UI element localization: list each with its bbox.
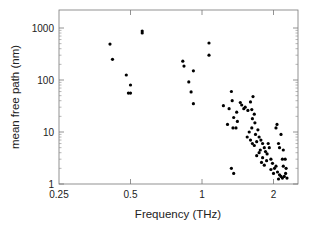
data-point bbox=[274, 165, 277, 168]
data-point bbox=[240, 103, 243, 106]
data-point bbox=[278, 146, 281, 149]
data-point bbox=[248, 130, 251, 133]
data-point bbox=[274, 126, 277, 129]
data-point bbox=[111, 58, 114, 61]
data-point bbox=[231, 99, 234, 102]
data-point bbox=[285, 177, 288, 180]
x-axis-label: Frequency (THz) bbox=[135, 208, 221, 220]
data-point bbox=[192, 102, 195, 105]
data-point bbox=[255, 154, 258, 157]
y-tick-label: 100 bbox=[37, 75, 54, 86]
x-tick-label: 1 bbox=[199, 189, 205, 200]
data-point bbox=[231, 126, 234, 129]
data-point bbox=[272, 172, 275, 175]
data-point bbox=[253, 121, 256, 124]
x-tick-label: 0.5 bbox=[124, 189, 138, 200]
y-axis-label: mean free path (nm) bbox=[9, 45, 21, 149]
data-point bbox=[228, 107, 231, 110]
data-point bbox=[232, 172, 235, 175]
data-point bbox=[125, 73, 128, 76]
data-point bbox=[265, 159, 268, 162]
data-point bbox=[256, 128, 259, 131]
data-point bbox=[269, 158, 272, 161]
data-point bbox=[260, 161, 263, 164]
data-point bbox=[249, 139, 252, 142]
data-point bbox=[282, 148, 285, 151]
y-tick-label: 1 bbox=[48, 179, 54, 190]
data-point bbox=[258, 151, 261, 154]
y-tick-label: 10 bbox=[43, 127, 55, 138]
data-point bbox=[255, 140, 258, 143]
data-point bbox=[282, 165, 285, 168]
data-point bbox=[277, 142, 280, 145]
data-point bbox=[268, 146, 271, 149]
data-point bbox=[284, 158, 287, 161]
data-point bbox=[285, 167, 288, 170]
x-tick-label: 0.25 bbox=[49, 189, 69, 200]
data-point bbox=[261, 142, 264, 145]
data-point bbox=[192, 69, 195, 72]
data-point bbox=[284, 172, 287, 175]
data-point bbox=[246, 135, 249, 138]
data-point bbox=[258, 135, 261, 138]
data-point bbox=[279, 133, 282, 136]
data-point bbox=[187, 80, 190, 83]
data-point bbox=[129, 83, 132, 86]
data-point bbox=[254, 133, 257, 136]
data-point bbox=[275, 123, 278, 126]
data-point bbox=[108, 43, 111, 46]
data-point bbox=[267, 142, 270, 145]
data-point bbox=[281, 158, 284, 161]
data-point bbox=[269, 168, 272, 171]
data-point bbox=[234, 126, 237, 129]
data-point bbox=[190, 90, 193, 93]
data-point bbox=[207, 41, 210, 44]
scatter-chart: 1101001000 0.250.512 Frequency (THz) mea… bbox=[0, 0, 315, 228]
data-point bbox=[276, 170, 279, 173]
data-point bbox=[253, 144, 256, 147]
data-point bbox=[261, 156, 264, 159]
data-point bbox=[141, 31, 144, 34]
data-point bbox=[249, 100, 252, 103]
data-point bbox=[222, 104, 225, 107]
y-tick-label: 1000 bbox=[32, 23, 55, 34]
data-point bbox=[253, 113, 256, 116]
data-point bbox=[263, 164, 266, 167]
data-point bbox=[230, 167, 233, 170]
data-point bbox=[263, 146, 266, 149]
data-point bbox=[244, 106, 247, 109]
data-point bbox=[246, 109, 249, 112]
data-point bbox=[250, 126, 253, 129]
data-point bbox=[277, 177, 280, 180]
x-tick-label: 2 bbox=[271, 189, 277, 200]
data-point bbox=[251, 95, 254, 98]
data-point bbox=[250, 108, 253, 111]
data-point bbox=[182, 65, 185, 68]
data-point bbox=[207, 54, 210, 57]
data-point bbox=[232, 116, 235, 119]
data-point bbox=[129, 92, 132, 95]
data-point bbox=[266, 152, 269, 155]
data-point bbox=[230, 90, 233, 93]
data-point bbox=[181, 60, 184, 63]
data-point bbox=[283, 175, 286, 178]
data-point bbox=[235, 111, 238, 114]
data-point bbox=[226, 123, 229, 126]
data-point bbox=[251, 117, 254, 120]
data-point bbox=[259, 139, 262, 142]
data-point bbox=[236, 120, 239, 123]
data-point bbox=[271, 162, 274, 165]
